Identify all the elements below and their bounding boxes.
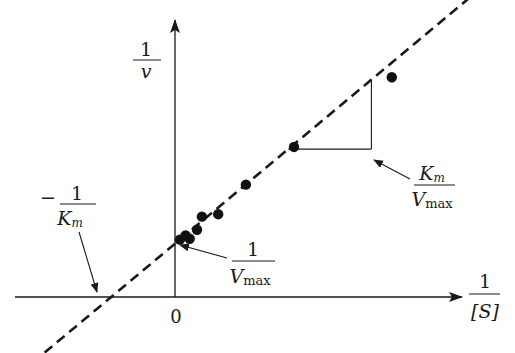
y-axis-label-denominator: v (141, 60, 152, 82)
data-points (175, 72, 397, 245)
annotation-y-intercept-denominator: Vmax (229, 265, 271, 288)
annotation-slope-denominator: Vmax (411, 188, 453, 211)
data-point (197, 211, 207, 221)
annotation-y-intercept: 1 Vmax (180, 238, 275, 288)
data-point (213, 209, 223, 219)
annotation-x-intercept: − 1 Km (40, 182, 97, 292)
annotation-y-intercept-arrow (180, 245, 227, 258)
data-point (387, 72, 397, 82)
annotation-x-intercept-prefix: − (40, 186, 56, 208)
annotation-slope: Km Vmax (374, 160, 455, 211)
x-axis-label-denominator: [S] (471, 300, 499, 322)
y-axis-label: 1 v (133, 38, 161, 82)
x-axis-label-numerator: 1 (479, 270, 491, 292)
annotation-x-intercept-denominator: Km (56, 207, 83, 230)
lineweaver-burk-plot: 1 v 1 [S] 0 − 1 Km 1 Vmax Km Vmax (0, 0, 515, 353)
data-point (241, 179, 251, 189)
origin-tick-label: 0 (170, 306, 181, 327)
annotation-x-intercept-arrow (79, 232, 97, 292)
x-axis-label: 1 [S] (469, 270, 500, 322)
annotation-x-intercept-numerator: 1 (71, 182, 83, 204)
annotation-slope-arrow (374, 160, 410, 179)
data-point (289, 142, 299, 152)
data-point (184, 234, 194, 244)
annotation-y-intercept-numerator: 1 (247, 238, 259, 260)
annotation-slope-numerator: Km (418, 162, 445, 185)
data-point (192, 225, 202, 235)
y-axis-label-numerator: 1 (140, 38, 152, 60)
